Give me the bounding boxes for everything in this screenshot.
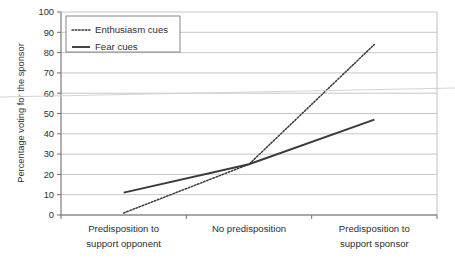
y-tick-label-10: 10 [44, 190, 54, 200]
chart-figure: 0102030405060708090100 Predisposition to… [0, 0, 455, 260]
x-category-label-1-line-0: No predisposition [212, 223, 286, 234]
legend-label-0: Enthusiasm cues [95, 24, 168, 35]
chart-legend: Enthusiasm cuesFear cues [66, 16, 180, 52]
y-tick-label-60: 60 [44, 89, 54, 99]
x-category-label-0-line-0: Predisposition to [88, 223, 159, 234]
y-tick-label-0: 0 [49, 210, 54, 220]
y-tick-label-20: 20 [44, 170, 54, 180]
y-tick-label-40: 40 [44, 129, 54, 139]
x-category-label-2-line-0: Predisposition to [339, 223, 410, 234]
legend-label-1: Fear cues [95, 41, 138, 52]
y-tick-label-100: 100 [38, 7, 54, 17]
x-category-label-2-line-1: support sponsor [340, 238, 410, 249]
line-chart: 0102030405060708090100 Predisposition to… [0, 0, 455, 260]
y-tick-label-70: 70 [44, 68, 54, 78]
y-tick-label-50: 50 [44, 109, 54, 119]
y-tick-label-30: 30 [44, 149, 54, 159]
y-tick-label-90: 90 [44, 28, 54, 38]
y-axis-title: Percentage voting for the sponsor [16, 43, 26, 183]
x-category-label-0-line-1: support opponent [86, 238, 161, 249]
y-tick-label-80: 80 [44, 48, 54, 58]
